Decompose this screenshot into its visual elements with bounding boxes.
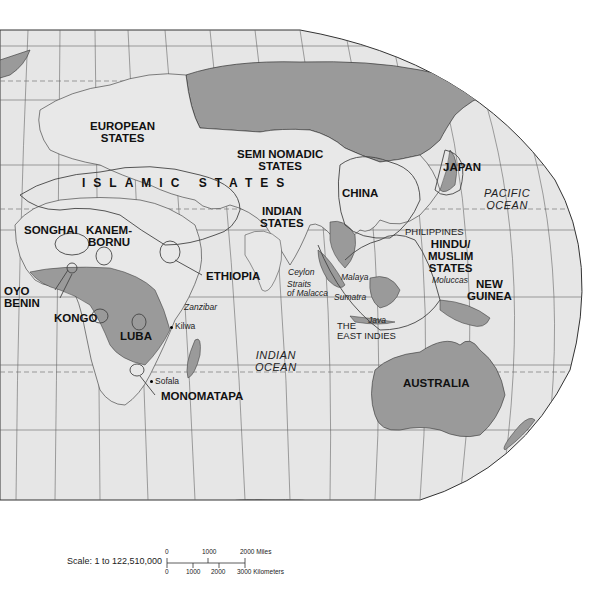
label-straits-of-malacca: Straits of Malacca [287,280,328,298]
label-line: OCEAN [255,362,297,374]
label-sofala: Sofala [155,377,179,386]
label-malaya: Malaya [341,273,368,282]
label-semi-nomadic-states: SEMI NOMADIC STATES [237,148,323,172]
antarctica [0,500,351,556]
label-oyo-benin: OYO BENIN [4,285,40,309]
label-monomatapa: MONOMATAPA [161,390,243,402]
label-sumatra: Sumatra [334,293,366,302]
label-philippines: PHILIPPINES [405,227,464,237]
label-line: BORNU [86,236,132,248]
label-australia: AUSTRALIA [403,377,469,389]
label-line: INDIAN [255,350,297,362]
label-kanem-bornu: KANEM- BORNU [86,224,132,248]
label-hindu-muslim-states: HINDU/ MUSLIM STATES [428,238,473,274]
label-line: EUROPEAN [90,120,155,132]
label-east-indies: THE EAST INDIES [337,321,396,341]
label-line: OCEAN [484,200,530,212]
label-line: STATES [237,160,323,172]
scale-miles-2000: 2000 Miles [240,549,271,556]
label-luba: LUBA [120,330,152,342]
label-line: NEW [467,278,512,290]
scale-km-0: 0 [165,569,169,576]
label-ceylon: Ceylon [288,268,314,277]
label-ethiopia: ETHIOPIA [206,270,260,282]
scale-km-1000: 1000 [186,569,200,576]
label-line: HINDU/ [428,238,473,250]
label-line: of Malacca [287,289,328,298]
label-line: INDIAN [260,205,304,217]
label-indian-states: INDIAN STATES [260,205,304,229]
label-line: KANEM- [86,224,132,236]
label-kilwa: Kilwa [175,322,195,331]
label-songhai: SONGHAI [24,224,78,236]
label-line: STATES [260,217,304,229]
scale-km-3000: 3000 Kilometers [237,569,284,576]
label-line: MUSLIM [428,250,473,262]
label-line: GUINEA [467,290,512,302]
kilwa-dot [170,326,173,329]
scale-miles-0: 0 [165,549,169,556]
label-line: STATES [428,262,473,274]
scale-miles-1000: 1000 [202,549,216,556]
label-china: CHINA [342,187,378,199]
scale-bar [167,558,245,568]
label-line: PACIFIC [484,188,530,200]
label-japan: JAPAN [443,161,481,173]
label-line: OYO [4,285,40,297]
label-line: STATES [90,132,155,144]
label-islamic-states: ISLAMIC STATES [82,177,292,190]
label-pacific-ocean: PACIFIC OCEAN [484,188,530,211]
label-indian-ocean: INDIAN OCEAN [255,350,297,373]
label-line: EAST INDIES [337,331,396,341]
label-line: BENIN [4,297,40,309]
scale-km-2000: 2000 [211,569,225,576]
sofala-dot [150,380,153,383]
label-new-guinea: NEW GUINEA [467,278,512,302]
label-kongo: KONGO [54,312,97,324]
label-european-states: EUROPEAN STATES [90,120,155,144]
label-moluccas: Moluccas [432,276,468,285]
label-zanzibar: Zanzibar [184,303,217,312]
scale-label: Scale: 1 to 122,510,000 [67,557,162,566]
label-line: SEMI NOMADIC [237,148,323,160]
